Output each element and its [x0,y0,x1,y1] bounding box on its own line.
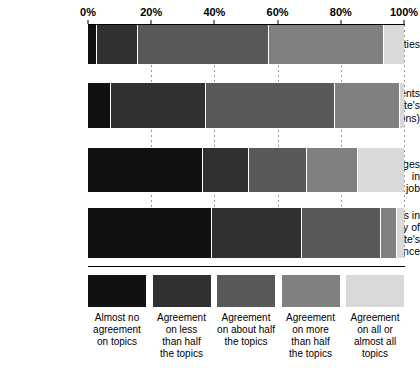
legend-item-0[interactable]: Almost noagreementon topics [88,275,146,348]
legend-label-line: on less [153,324,211,336]
tick-mark-60 [277,20,278,24]
legend-label: Agreementon all oralmost alltopics [346,312,404,360]
bar-segment [383,25,404,64]
tick-mark-40 [214,20,215,24]
legend-label: Agreementon about halfthe topics [217,312,275,348]
x-tick-label-20: 20% [140,6,162,18]
x-tick-label-60: 60% [267,6,289,18]
bar-row [88,83,404,128]
legend-label: Agreementon lessthan halfthe topics [153,312,211,360]
tick-mark-0 [88,20,89,24]
legend-label-line: the topics [217,336,275,348]
x-tick-label-0: 0% [80,6,96,18]
bar-row [88,25,404,64]
bar-row [88,148,404,192]
legend-label-line: on all or [346,324,404,336]
bar-segment [88,25,96,64]
legend-label-line: agreement [88,324,146,336]
legend-label-line: the topics [282,348,340,360]
tick-mark-20 [151,20,152,24]
legend-swatch [282,275,340,307]
legend-separator [88,266,405,267]
legend-swatch [88,275,146,307]
bar-segment [301,208,380,258]
bar-segment [88,208,211,258]
legend-label-line: the topics [153,348,211,360]
bar-segment [248,148,306,192]
x-tick-label-80: 80% [330,6,352,18]
bar-segment [357,148,404,192]
x-axis-tick-labels: 0%20%40%60%80%100% [88,6,404,22]
bar-segment [110,83,205,128]
bar-segment [88,83,110,128]
legend-label-line: on topics [88,336,146,348]
legend-label-line: than half [153,336,211,348]
legend-label-line: than half [282,336,340,348]
legend-swatch [153,275,211,307]
bar-segment [380,208,396,258]
bar-segment [334,83,399,128]
legend-label: Agreementon morethan halfthe topics [282,312,340,360]
legend-item-1[interactable]: Agreementon lessthan halfthe topics [153,275,211,360]
bar-segment [306,148,357,192]
legend-swatch [217,275,275,307]
bar-segment [396,208,404,258]
bar-segment [137,25,268,64]
legend-label-line: Agreement [282,312,340,324]
bar-segment [96,25,137,64]
legend-label-line: on more [282,324,340,336]
legend-label-line: on about half [217,324,275,336]
legend-label-line: Agreement [153,312,211,324]
bar-segment [268,25,383,64]
bar-segment [88,148,202,192]
legend-label-line: Almost no [88,312,146,324]
bar-segment [202,148,248,192]
legend-swatch [346,275,404,307]
legend-label-line: Agreement [346,312,404,324]
legend-item-3[interactable]: Agreementon morethan halfthe topics [282,275,340,360]
bar-segment [399,83,404,128]
legend-label: Almost noagreementon topics [88,312,146,348]
gridline-100 [404,25,405,258]
x-tick-label-100: 100% [390,6,418,18]
bar-row [88,208,404,258]
x-tick-label-40: 40% [203,6,225,18]
legend-label-line: almost all [346,336,404,348]
legend-item-2[interactable]: Agreementon about halfthe topics [217,275,275,348]
bar-segment [211,208,301,258]
tick-mark-80 [340,20,341,24]
legend-label-line: topics [346,348,404,360]
legend-label-line: Agreement [217,312,275,324]
stacked-bar-chart: 0%20%40%60%80%100% Job dutiesJob require… [0,0,420,371]
bar-segment [205,83,335,128]
legend-item-4[interactable]: Agreementon all oralmost alltopics [346,275,404,360]
tick-mark-100 [404,20,405,24]
